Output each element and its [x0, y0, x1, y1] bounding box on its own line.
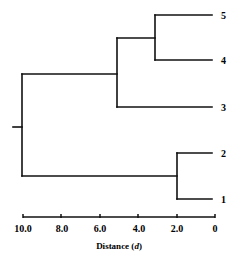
x-tick-label: 6.0 [94, 223, 107, 234]
leaf-label-5: 5 [221, 10, 226, 21]
leaf-labels: 5 4 3 2 1 [221, 10, 226, 205]
x-tick-label: 4.0 [133, 223, 146, 234]
x-tick-label: 0 [213, 223, 218, 234]
x-tick-label: 10.0 [14, 223, 32, 234]
leaf-label-3: 3 [221, 102, 226, 113]
x-axis-title-close: ) [139, 241, 142, 251]
x-axis-title: Distance (d) [96, 241, 142, 251]
x-tick-label: 2.0 [171, 223, 184, 234]
x-tick-label: 8.0 [56, 223, 69, 234]
leaf-label-2: 2 [221, 148, 226, 159]
leaf-label-4: 4 [221, 55, 226, 66]
x-axis-title-text: Distance ( [96, 241, 134, 251]
dendrogram-chart: 5 4 3 2 1 10.0 8.0 6.0 4.0 2.0 0 Distanc… [0, 0, 239, 259]
dendrogram-lines [13, 15, 212, 199]
x-tick-labels: 10.0 8.0 6.0 4.0 2.0 0 [14, 223, 217, 234]
x-axis [23, 214, 215, 218]
leaf-label-1: 1 [221, 194, 226, 205]
